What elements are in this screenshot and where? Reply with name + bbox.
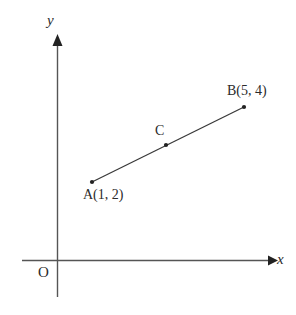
x-axis-label: x [277,252,284,267]
coordinate-plane-figure: y x O A(1, 2) B(5, 4) C [0,0,296,315]
point-c-label: C [155,124,164,138]
y-axis-arrowhead-icon [53,34,63,46]
point-a-label: A(1, 2) [83,188,123,202]
point-b-label: B(5, 4) [227,84,267,98]
point-a-marker [90,180,94,184]
origin-label: O [38,265,49,280]
point-c-marker [164,143,168,147]
y-axis-label: y [47,13,54,28]
point-b-marker [242,105,246,109]
